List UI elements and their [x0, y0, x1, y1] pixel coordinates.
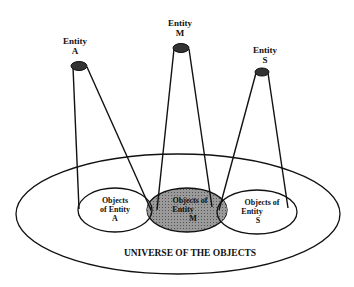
entity-a-disc	[71, 62, 87, 71]
objects-a-label: Objectsof EntityA	[100, 196, 130, 223]
entity-m-disc	[173, 44, 189, 53]
entity-s-label: EntityS	[253, 45, 278, 65]
objects-s-label: Objects ofEntityS	[241, 198, 279, 225]
entity-a-label: EntityA	[63, 36, 88, 56]
entity-m-label: EntityM	[168, 18, 193, 38]
universe-label: UNIVERSE OF THE OBJECTS	[124, 248, 256, 258]
entity-s-disc	[255, 68, 269, 76]
entity-objects-diagram: EntityA EntityM EntityS Objectsof Entity…	[0, 0, 354, 287]
